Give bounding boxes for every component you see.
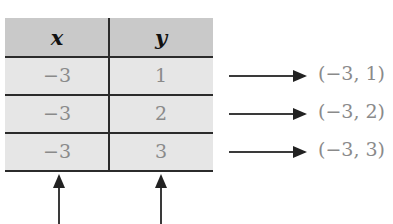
right-arrow-icon (229, 113, 305, 115)
cell-y: 1 (109, 56, 213, 94)
ordered-pair: (−3, 1) (318, 62, 385, 84)
cell-x: −3 (5, 56, 109, 94)
right-arrow-icon (229, 75, 305, 77)
header-y: y (109, 18, 213, 56)
header-x: x (5, 18, 109, 56)
right-arrow-icon (229, 151, 305, 153)
up-arrow-icon (160, 178, 162, 224)
xy-table: x y −3 1 −3 2 −3 3 (5, 18, 213, 170)
ordered-pair: (−3, 3) (318, 138, 385, 160)
up-arrow-icon (58, 178, 60, 224)
cell-y: 3 (109, 132, 213, 170)
ordered-pair: (−3, 2) (318, 100, 385, 122)
cell-y: 2 (109, 94, 213, 132)
cell-x: −3 (5, 94, 109, 132)
cell-x: −3 (5, 132, 109, 170)
column-divider (108, 18, 110, 172)
